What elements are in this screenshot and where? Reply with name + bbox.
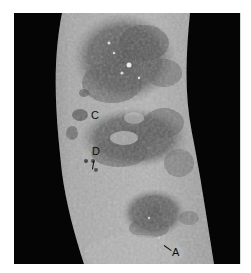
label-a: A (172, 247, 179, 258)
clinical-photo: C D A B (14, 13, 241, 264)
label-d: D (92, 146, 100, 157)
limb-illustration (14, 13, 240, 264)
label-c: C (91, 110, 99, 121)
